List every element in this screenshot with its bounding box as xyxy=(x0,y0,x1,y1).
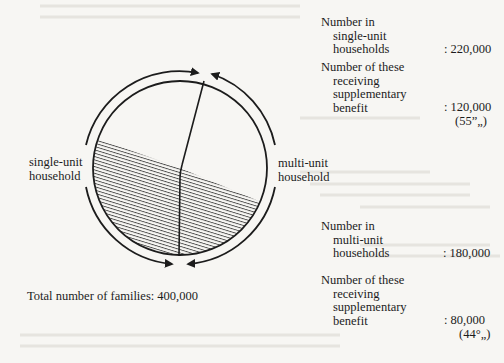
stat-value: : 80,000 xyxy=(444,314,485,328)
hatched-benefit-region xyxy=(60,136,275,258)
total-families: Total number of families: 400,000 xyxy=(27,290,198,304)
stat-single-benefit: Number of these receiving supplementary … xyxy=(321,61,501,115)
label-single-unit: single-unit household xyxy=(29,156,82,183)
stat-single-count: Number in single-unit households : 220,0… xyxy=(321,16,501,57)
label-multi-unit: multi-unit household xyxy=(278,157,329,184)
stat-percent: (55”„) xyxy=(455,115,487,129)
stat-value: : 180,000 xyxy=(443,247,490,261)
stat-value: : 220,000 xyxy=(444,43,491,57)
stat-value: : 120,000 xyxy=(444,101,491,115)
stat-multi-benefit: Number of these receiving supplementary … xyxy=(321,274,501,328)
stat-multi-count: Number in multi-unit households : 180,00… xyxy=(321,220,501,261)
stat-percent: (44°„) xyxy=(459,328,490,342)
arrow-single-upper xyxy=(86,71,198,145)
